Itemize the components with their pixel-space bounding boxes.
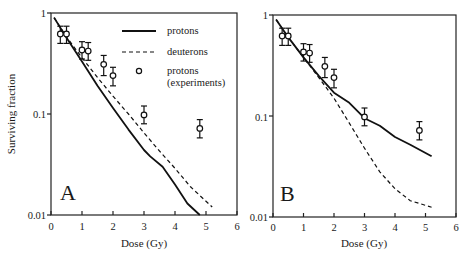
experiment-marker [79,47,85,53]
protons-curve [276,20,432,157]
dose-response-figure: 0123456 Surviving fraction Dose (Gy) 1 0… [0,0,469,257]
legend-deuterons-label: deuterons [167,46,208,57]
x-tick-label: 0 [270,222,275,233]
panel-label-a: A [60,180,76,205]
experiment-marker [85,48,91,54]
x-tick-label: 6 [234,221,239,232]
ytick-label-1-a: 1 [41,8,46,19]
x-tick-label: 5 [203,221,208,232]
ytick-label-0.01-a: 0.01 [28,210,46,221]
legend-experiments-label-1: protons [167,65,199,76]
x-tick-label: 2 [331,222,336,233]
experiment-marker [417,128,423,134]
experiment-marker [58,31,64,37]
experiment-marker [279,33,285,39]
panel-label-b: B [280,181,295,206]
experiment-marker [362,114,368,120]
x-tick-label: 2 [110,221,115,232]
x-tick-label: 1 [301,222,306,233]
experiment-marker [141,112,147,118]
ytick-label-0.1-b: 0.1 [255,112,268,123]
experiment-marker [307,50,313,56]
x-axis-label-a: Dose (Gy) [121,237,167,250]
legend-experiments-marker [136,68,141,73]
experiment-marker [301,49,307,55]
experiment-marker [110,73,116,79]
experiment-marker [101,62,107,68]
x-tick-label: 3 [362,222,367,233]
x-tick-label: 1 [79,221,84,232]
experiment-marker [331,75,337,81]
experiment-marker [64,31,70,37]
x-tick-label: 3 [141,221,146,232]
experiment-marker [285,33,291,39]
panel-a: 0123456 Surviving fraction Dose (Gy) 1 0… [5,8,240,250]
legend-experiments-label-2: (experiments) [167,77,226,89]
y-axis-label: Surviving fraction [5,73,17,154]
x-tick-label: 4 [392,222,398,233]
panel-b-series [276,20,432,208]
panel-a-x-ticks: 0123456 [48,211,239,232]
x-tick-label: 0 [48,221,53,232]
panel-b-y-ticks [269,15,273,217]
ytick-label-1-b: 1 [263,10,268,21]
x-axis-label-b: Dose (Gy) [341,237,387,250]
x-tick-label: 6 [453,222,458,233]
legend-protons-label: protons [167,25,199,36]
experiment-marker [197,126,203,132]
ytick-label-0.01-b: 0.01 [250,212,268,223]
deuterons-curve [276,20,432,208]
x-tick-label: 4 [172,221,178,232]
experiment-marker [322,64,328,70]
ytick-label-0.1-a: 0.1 [33,109,46,120]
legend: protons deuterons protons (experiments) [122,25,226,89]
panel-b-x-ticks: 0123456 [270,213,458,233]
panel-b: 0123456 Dose (Gy) 1 0.1 0.01 B [250,10,459,250]
x-tick-label: 5 [423,222,428,233]
